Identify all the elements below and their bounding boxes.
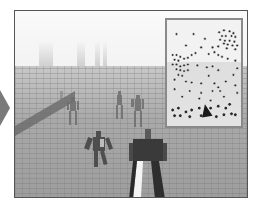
agent-dot bbox=[223, 29, 226, 32]
agent-dot bbox=[219, 38, 222, 41]
agent-dot bbox=[178, 114, 182, 118]
npc-character bbox=[84, 131, 113, 167]
agent-dot bbox=[217, 54, 220, 57]
agent-dot bbox=[224, 39, 227, 42]
agent-dot bbox=[219, 90, 222, 93]
agent-dot bbox=[216, 104, 220, 108]
agent-dot bbox=[228, 30, 231, 33]
agent-dot bbox=[228, 39, 231, 42]
agent-dot bbox=[230, 112, 234, 116]
player-character bbox=[129, 129, 167, 198]
agent-dot bbox=[179, 65, 182, 68]
agent-dot bbox=[188, 90, 191, 93]
agent-dot bbox=[223, 95, 226, 98]
agent-dot bbox=[200, 82, 203, 85]
agent-dot bbox=[197, 106, 201, 110]
npc-character bbox=[67, 97, 79, 125]
agent-dot bbox=[187, 56, 190, 59]
agent-dot bbox=[200, 46, 203, 49]
agent-dot bbox=[218, 31, 221, 34]
agent-dot bbox=[183, 57, 186, 60]
agent-dot bbox=[236, 67, 239, 70]
agent-dot bbox=[192, 33, 195, 36]
agent-dot bbox=[173, 88, 176, 91]
agent-dot bbox=[234, 48, 237, 51]
agent-dot bbox=[188, 115, 192, 119]
agent-dot bbox=[198, 97, 201, 100]
agent-dot bbox=[223, 42, 226, 45]
agent-dot bbox=[177, 74, 180, 77]
agent-dot bbox=[190, 81, 193, 84]
agent-dot bbox=[232, 74, 235, 77]
agent-dot bbox=[231, 44, 234, 47]
agent-dot bbox=[181, 75, 184, 78]
agent-dot bbox=[233, 40, 236, 43]
agent-dot bbox=[234, 59, 237, 62]
agent-dot bbox=[214, 115, 218, 119]
agent-dot bbox=[206, 66, 209, 69]
agent-dot bbox=[173, 78, 176, 81]
agent-dot bbox=[209, 106, 213, 110]
agent-dot bbox=[228, 102, 232, 106]
agent-dot bbox=[200, 92, 203, 95]
agent-dot bbox=[176, 106, 180, 110]
agent-dot bbox=[171, 54, 174, 57]
agent-dot bbox=[171, 108, 175, 112]
agent-dot bbox=[185, 44, 188, 47]
agent-dot bbox=[222, 113, 226, 117]
game-viewport[interactable] bbox=[14, 10, 248, 198]
agent-dot bbox=[224, 80, 227, 83]
agent-dot bbox=[175, 63, 178, 66]
agent-dot bbox=[217, 69, 220, 72]
agent-dot bbox=[234, 84, 237, 87]
agent-dot bbox=[209, 99, 212, 102]
agent-dot bbox=[184, 110, 188, 114]
agent-dot bbox=[221, 56, 224, 59]
minimap-agents bbox=[167, 20, 241, 126]
agent-dot bbox=[183, 70, 186, 73]
agent-dot bbox=[179, 56, 182, 59]
agent-dot bbox=[185, 80, 188, 83]
agent-dot bbox=[226, 57, 229, 60]
agent-dot bbox=[171, 63, 174, 66]
agent-dot bbox=[230, 35, 233, 38]
agent-dot bbox=[194, 52, 197, 55]
agent-dot bbox=[211, 46, 214, 49]
agent-dot bbox=[217, 86, 220, 89]
agent-dot bbox=[181, 95, 184, 98]
agent-dot bbox=[224, 106, 228, 110]
agent-dot bbox=[225, 47, 228, 50]
agent-dot bbox=[236, 92, 239, 95]
agent-dot bbox=[179, 69, 182, 72]
npc-character bbox=[116, 91, 123, 119]
agent-dot bbox=[232, 32, 235, 35]
agent-dot bbox=[187, 69, 190, 72]
npc-character bbox=[60, 91, 63, 105]
agent-dot bbox=[204, 38, 207, 41]
agent-dot bbox=[187, 63, 190, 66]
agent-dot bbox=[173, 114, 177, 118]
agent-dot bbox=[233, 113, 237, 117]
agent-dot bbox=[190, 108, 194, 112]
agent-dot bbox=[175, 33, 178, 36]
agent-dot bbox=[213, 82, 216, 85]
agent-dot bbox=[234, 36, 237, 39]
agent-dot bbox=[236, 44, 239, 47]
agent-dot bbox=[173, 58, 176, 61]
agent-dot bbox=[183, 64, 186, 67]
agent-dot bbox=[217, 45, 220, 48]
agent-dot bbox=[207, 75, 210, 78]
agent-dot bbox=[175, 68, 178, 71]
agent-dot bbox=[226, 43, 229, 46]
npc-character bbox=[131, 95, 144, 127]
agent-dot bbox=[207, 53, 210, 56]
agent-dot bbox=[190, 54, 193, 57]
agent-dot bbox=[196, 64, 199, 67]
chevron-right-icon[interactable] bbox=[0, 88, 12, 128]
agent-dot bbox=[175, 54, 178, 57]
agent-dot bbox=[211, 65, 214, 68]
agent-dot bbox=[221, 35, 224, 38]
minimap[interactable] bbox=[165, 18, 243, 128]
agent-dot bbox=[177, 59, 180, 62]
agent-dot bbox=[213, 51, 216, 54]
